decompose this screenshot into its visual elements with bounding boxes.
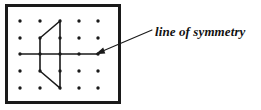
peg-dot: [18, 69, 21, 72]
peg-dot: [96, 69, 99, 72]
peg-dot: [38, 86, 41, 89]
peg-dot: [77, 36, 80, 39]
peg-dot: [96, 36, 99, 39]
peg-dot: [38, 19, 41, 22]
line-of-symmetry-figure: line of symmetry: [0, 0, 261, 110]
line-of-symmetry-label: line of symmetry: [155, 24, 245, 39]
peg-dot: [77, 69, 80, 72]
peg-dot: [18, 36, 21, 39]
peg-dot: [18, 86, 21, 89]
peg-dot: [96, 19, 99, 22]
peg-dot: [77, 86, 80, 89]
peg-dot: [96, 86, 99, 89]
peg-dot: [18, 19, 21, 22]
peg-dot: [77, 19, 80, 22]
figure-canvas: [0, 0, 261, 110]
